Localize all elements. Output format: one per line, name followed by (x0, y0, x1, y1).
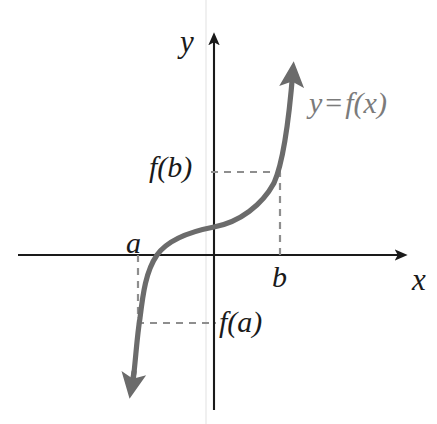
curve-equation-label: y=f(x) (309, 88, 387, 118)
graph-canvas (0, 0, 437, 424)
curve-equation-rhs: f(x) (345, 86, 387, 119)
curve-equation-operator: = (322, 86, 345, 119)
x-axis-label: x (412, 264, 426, 295)
curve-equation-lhs: y (309, 86, 322, 119)
y-axis-label: y (180, 26, 194, 57)
f-of-a-label: f(a) (219, 307, 262, 337)
point-a-label: a (126, 228, 141, 258)
f-of-b-label: f(b) (149, 152, 192, 182)
function-curve-lower-arrow (131, 372, 134, 390)
point-b-label: b (272, 262, 287, 292)
function-graph-figure: y x a b f(b) f(a) y=f(x) (0, 0, 437, 424)
